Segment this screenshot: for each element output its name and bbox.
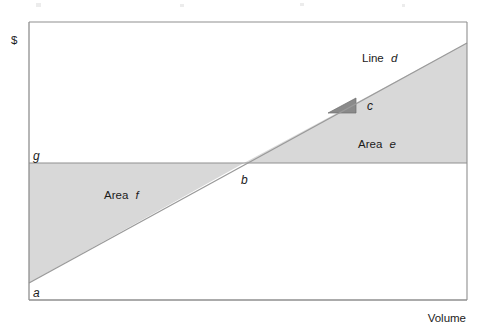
scan-artifact: [36, 3, 41, 7]
point-label-b: b: [241, 173, 248, 187]
area-e-label-prefix: Area: [358, 138, 383, 150]
area-f-label-prefix: Area: [104, 189, 129, 201]
scan-artifact: [180, 4, 184, 7]
scan-artifact: [300, 3, 304, 6]
cost-volume-chart: $ Volume g a b c Line d Area e Area f: [0, 0, 488, 329]
point-label-g: g: [33, 149, 40, 163]
x-axis-label: Volume: [428, 312, 466, 324]
line-d-label: Line d: [362, 52, 398, 64]
line-d-label-letter: d: [391, 52, 398, 64]
area-e-label: Area e: [358, 138, 396, 150]
line-d-label-prefix: Line: [362, 52, 384, 64]
point-label-c: c: [367, 99, 373, 113]
area-e-label-letter: e: [390, 138, 396, 150]
scan-artifact: [402, 4, 405, 7]
point-label-a: a: [33, 286, 40, 300]
area-f-label: Area f: [104, 189, 141, 201]
figure-root: $ Volume g a b c Line d Area e Area f: [0, 0, 488, 329]
y-axis-label: $: [11, 34, 18, 46]
